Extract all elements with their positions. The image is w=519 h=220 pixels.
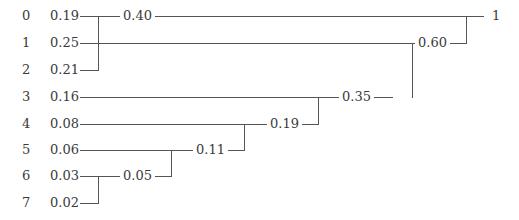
merge-node-label: 0.19 bbox=[267, 117, 302, 131]
merge-node-label: 0.11 bbox=[193, 143, 228, 157]
merge-node-label: 0.35 bbox=[339, 90, 374, 104]
leaf-index: 5 bbox=[22, 143, 30, 157]
leaf-index: 0 bbox=[22, 9, 30, 23]
leaf-index: 4 bbox=[22, 117, 30, 131]
leaf-probability: 0.19 bbox=[50, 9, 79, 23]
leaf-index: 6 bbox=[22, 169, 30, 183]
leaf-probability: 0.03 bbox=[50, 169, 79, 183]
merge-node-label: 0.60 bbox=[415, 36, 450, 50]
leaf-probability: 0.06 bbox=[50, 143, 79, 157]
tree-edges bbox=[0, 0, 519, 220]
huffman-tree-diagram: 0 1 2 3 4 5 6 7 0.19 0.25 0.21 0.16 0.08… bbox=[0, 0, 519, 220]
leaf-index: 7 bbox=[22, 196, 30, 210]
merge-node-label: 0.05 bbox=[120, 169, 155, 183]
leaf-index: 3 bbox=[22, 90, 30, 104]
leaf-index: 2 bbox=[22, 63, 30, 77]
leaf-probability: 0.08 bbox=[50, 117, 79, 131]
leaf-probability: 0.02 bbox=[50, 196, 79, 210]
leaf-index: 1 bbox=[22, 36, 30, 50]
merge-node-label: 0.40 bbox=[120, 9, 155, 23]
leaf-probability: 0.25 bbox=[50, 36, 79, 50]
leaf-probability: 0.21 bbox=[50, 63, 79, 77]
leaf-probability: 0.16 bbox=[50, 90, 79, 104]
root-node-label: 1 bbox=[489, 9, 503, 23]
